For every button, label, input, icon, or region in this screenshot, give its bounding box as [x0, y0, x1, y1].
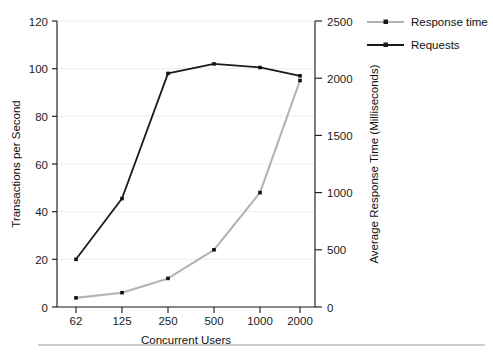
- data-point: [166, 72, 170, 76]
- bottom-axis-tick-labels: 62 125 250 500 1000 2000: [70, 315, 313, 327]
- legend-label-response-time: Response time: [411, 16, 488, 28]
- right-tick-label: 0: [327, 302, 333, 314]
- right-axis-title: Average Response Time (Milliseconds): [368, 64, 380, 263]
- right-tick-label: 1500: [327, 130, 353, 142]
- data-point: [258, 191, 262, 195]
- right-axis-ticks: [315, 21, 322, 307]
- right-tick-label: 1000: [327, 187, 353, 199]
- right-tick-label: 2000: [327, 73, 353, 85]
- left-tick-label: 80: [35, 111, 48, 123]
- left-axis-tick-labels: 120 100 80 60 40 20 0: [29, 16, 48, 314]
- left-tick-label: 100: [29, 63, 48, 75]
- data-point: [166, 277, 170, 281]
- data-point: [74, 258, 78, 262]
- left-tick-label: 20: [35, 254, 48, 266]
- right-axis-tick-labels: 2500 2000 1500 1000 500 0: [327, 16, 353, 314]
- performance-line-chart: 120 100 80 60 40 20 0 2500 2000 1500 100…: [0, 0, 493, 355]
- data-point: [120, 291, 124, 295]
- left-tick-label: 0: [42, 302, 48, 314]
- data-point: [74, 296, 78, 300]
- data-point: [212, 248, 216, 252]
- left-tick-label: 60: [35, 159, 48, 171]
- chart-legend: Response time Requests: [367, 16, 488, 51]
- legend-label-requests: Requests: [411, 39, 460, 51]
- bottom-tick-label: 1000: [247, 315, 273, 327]
- legend-marker-requests: [384, 43, 389, 48]
- bottom-tick-label: 500: [204, 315, 223, 327]
- bottom-tick-label: 250: [158, 315, 177, 327]
- left-axis-ticks: [52, 21, 57, 307]
- left-tick-label: 40: [35, 206, 48, 218]
- data-point: [298, 74, 302, 78]
- bottom-tick-label: 2000: [287, 315, 313, 327]
- left-tick-label: 120: [29, 16, 48, 28]
- data-point: [258, 66, 262, 70]
- bottom-axis-ticks: [76, 307, 300, 313]
- bottom-tick-label: 125: [112, 315, 131, 327]
- figure-container: 120 100 80 60 40 20 0 2500 2000 1500 100…: [0, 0, 493, 355]
- right-tick-label: 2500: [327, 16, 353, 28]
- data-point: [120, 197, 124, 201]
- data-point: [212, 62, 216, 66]
- right-tick-label: 500: [327, 244, 346, 256]
- legend-marker-response-time: [384, 20, 389, 25]
- data-point: [298, 79, 302, 83]
- left-axis-title: Transactions per Second: [10, 100, 22, 227]
- bottom-axis-title: Concurrent Users: [141, 334, 231, 346]
- bottom-tick-label: 62: [70, 315, 83, 327]
